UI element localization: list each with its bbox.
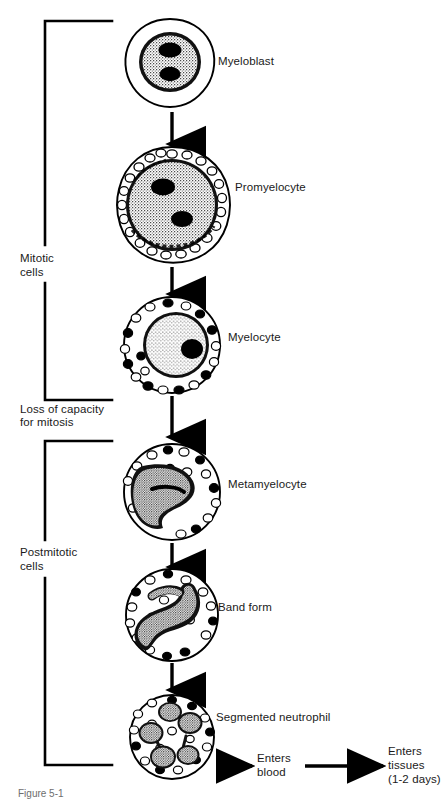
figure-caption: Figure 5-1	[18, 788, 64, 799]
fate-label-enters-tissues-line2: tissues	[388, 759, 425, 773]
bracket-postmitotic	[45, 441, 112, 765]
fate-label-enters-tissues-line3: (1-2 days)	[388, 773, 441, 787]
stage-label-myeloblast: Myeloblast	[218, 55, 274, 69]
cell-band-form	[125, 569, 218, 661]
stage-label-myelocyte: Myelocyte	[228, 331, 281, 345]
stage-label-promyelocyte: Promyelocyte	[235, 181, 306, 195]
bracket-label-mitotic-line1: Mitotic	[20, 252, 54, 266]
cell-myeloblast	[125, 19, 214, 107]
bracket-label-postmitotic-line1: Postmitotic	[20, 546, 77, 560]
cell-segmented-neutrophil	[129, 695, 214, 779]
bracket-label-postmitotic-line2: cells	[20, 560, 44, 574]
bracket-mitotic	[45, 21, 112, 400]
fate-label-enters-blood-line2: blood	[257, 766, 286, 780]
cell-myelocyte	[120, 297, 220, 394]
bracket-label-mitotic-line2: cells	[20, 266, 44, 280]
fate-label-enters-tissues-line1: Enters	[388, 745, 422, 759]
cell-promyelocyte	[117, 147, 230, 263]
note-loss-of-mitosis-line2: for mitosis	[20, 416, 74, 430]
note-loss-of-mitosis-line1: Loss of capacity	[20, 403, 104, 417]
stage-label-metamyelocyte: Metamyelocyte	[228, 478, 307, 492]
fate-label-enters-blood-line1: Enters	[257, 752, 291, 766]
stage-label-segmented-neutrophil: Segmented neutrophil	[216, 711, 331, 725]
cell-metamyelocyte	[123, 444, 220, 540]
stage-label-band-form: Band form	[218, 601, 272, 615]
